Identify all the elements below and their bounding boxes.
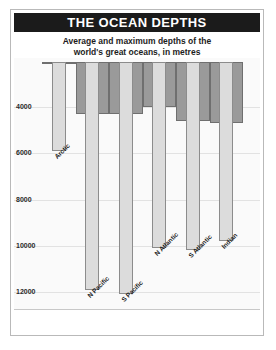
- chart-screenshot: THE OCEAN DEPTHS Average and maximum dep…: [0, 0, 276, 350]
- page-title: THE OCEAN DEPTHS: [67, 16, 206, 29]
- chart-subtitle: Average and maximum depths of the world'…: [14, 36, 260, 58]
- bar-maximum-s-pacific: [119, 62, 133, 294]
- subtitle-line-2: world's great oceans, in metres: [14, 47, 260, 58]
- bars-layer: [14, 58, 260, 310]
- bar-maximum-arctic: [52, 62, 66, 151]
- plot-area: 4000600080001000012000 ArcticN PacificS …: [14, 58, 260, 310]
- plot-inner: 4000600080001000012000 ArcticN PacificS …: [14, 58, 260, 310]
- bar-maximum-s-atlantic: [186, 62, 200, 250]
- chart-title-bar: THE OCEAN DEPTHS: [14, 13, 260, 32]
- subtitle-line-1: Average and maximum depths of the: [14, 36, 260, 47]
- plot-baseline: [14, 309, 260, 310]
- bar-maximum-n-pacific: [85, 62, 99, 290]
- bar-maximum-indian: [219, 62, 233, 241]
- bar-maximum-n-atlantic: [152, 62, 166, 248]
